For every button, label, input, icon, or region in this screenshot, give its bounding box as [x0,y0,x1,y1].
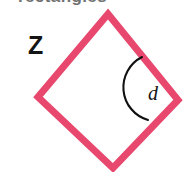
geometry-figure: rectangles Z d [0,0,184,172]
angle-label-d: d [148,83,158,103]
angle-arc-marker [123,57,148,120]
vertex-label-z: Z [28,33,43,58]
